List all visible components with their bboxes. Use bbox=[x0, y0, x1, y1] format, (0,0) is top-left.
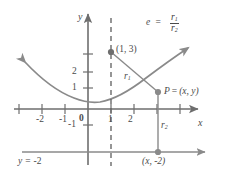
r1-label: r1 bbox=[124, 72, 131, 82]
x-tick-label--1: -1 bbox=[59, 115, 67, 125]
focus-point bbox=[108, 49, 114, 55]
y-tick-label-1: 1 bbox=[72, 83, 77, 93]
eccentricity-fraction: r1 r2 bbox=[170, 13, 179, 34]
point-p-equals: = bbox=[172, 86, 177, 96]
y-tick-label-2: 2 bbox=[72, 67, 77, 77]
x-tick-label-1: 1 bbox=[108, 115, 113, 125]
x-tick-label-0: 0 bbox=[79, 114, 84, 124]
eccentricity-denominator: r2 bbox=[170, 24, 179, 34]
point-p bbox=[155, 89, 161, 95]
point-p-letter: P bbox=[164, 86, 170, 96]
r2-sub: 2 bbox=[175, 27, 178, 33]
eccentricity-lhs: e bbox=[146, 17, 150, 27]
point-p-label: P=(x, y) bbox=[164, 87, 199, 97]
foot-point-label: (x, -2) bbox=[142, 157, 165, 167]
y-axis-label: y bbox=[78, 12, 82, 22]
x-tick-label--2: -2 bbox=[36, 115, 44, 125]
directrix-label-equals: = bbox=[25, 156, 30, 166]
r2-label-sub: 2 bbox=[165, 124, 168, 130]
directrix-label-value: -2 bbox=[34, 156, 42, 166]
directrix-label: y=-2 bbox=[18, 157, 42, 167]
y-tick-label--1: -1 bbox=[68, 120, 76, 130]
point-p-coords: (x, y) bbox=[179, 86, 199, 96]
x-tick-label-2: 2 bbox=[128, 115, 133, 125]
r1-label-sub: 1 bbox=[128, 75, 131, 81]
foot-point bbox=[155, 149, 161, 155]
eccentricity-equals: = bbox=[156, 17, 161, 27]
x-axis-label: x bbox=[198, 118, 202, 128]
r2-label: r2 bbox=[161, 121, 168, 131]
directrix-label-y: y bbox=[18, 156, 22, 166]
r1-sub: 1 bbox=[175, 16, 178, 22]
focus-label: (1, 3) bbox=[116, 45, 137, 55]
eccentricity-formula: e = bbox=[146, 18, 164, 28]
